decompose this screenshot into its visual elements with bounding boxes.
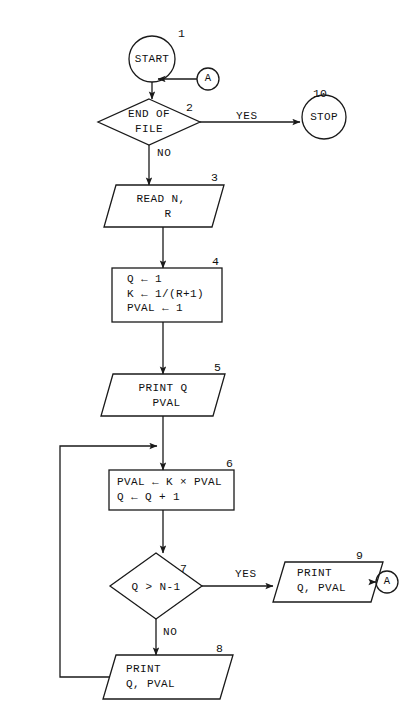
step-number-1: 1 <box>178 26 185 41</box>
step-number-4: 4 <box>212 254 219 269</box>
node-compute-label: PVAL ← K × PVAL Q ← Q + 1 <box>117 475 222 504</box>
step-number-7: 7 <box>180 561 187 576</box>
branch-label-loop-test-yes: YES <box>235 567 257 582</box>
node-print-first-label: PRINT Q PVAL <box>138 381 187 410</box>
flowchart-vector-layer <box>0 0 415 719</box>
branch-label-end-of-file-no: NO <box>157 146 171 161</box>
branch-label-end-of-file-yes: YES <box>236 109 258 124</box>
step-number-8: 8 <box>216 641 223 656</box>
branch-label-loop-test-no: NO <box>163 625 177 640</box>
node-init-label: Q ← 1 K ← 1/(R+1) PVAL ← 1 <box>127 272 204 316</box>
node-stop-label: STOP <box>310 110 338 125</box>
node-print-loop-label: PRINT Q, PVAL <box>126 662 175 691</box>
step-number-5: 5 <box>214 360 221 375</box>
step-number-9: 9 <box>356 548 363 563</box>
step-number-10: 10 <box>313 86 327 101</box>
step-number-2: 2 <box>186 100 193 115</box>
step-number-3: 3 <box>211 170 218 185</box>
node-loop-test-label: Q > N-1 <box>131 580 180 595</box>
node-connector-in-a-label: A <box>205 72 212 86</box>
node-print-last-label: PRINT Q, PVAL <box>297 566 346 595</box>
node-read-label: READ N, R <box>136 192 185 221</box>
node-connector-out-a-label: A <box>384 575 391 589</box>
step-number-6: 6 <box>226 456 233 471</box>
flowchart-canvas: START A END OF FILE STOP READ N, R Q ← 1… <box>0 0 415 719</box>
node-start-label: START <box>135 52 170 67</box>
node-end-of-file-label: END OF FILE <box>128 107 170 136</box>
